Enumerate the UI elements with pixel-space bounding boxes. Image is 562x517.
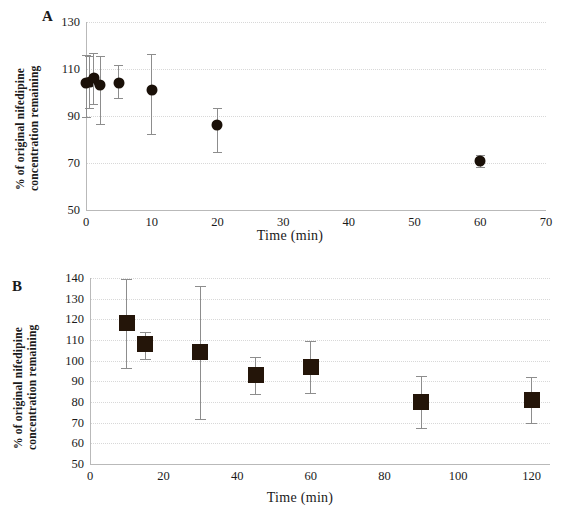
x-tick-label: 50: [408, 215, 421, 230]
y-tick-label: 90: [68, 109, 81, 124]
error-bar-cap: [213, 152, 222, 153]
error-bar-cap: [96, 56, 105, 57]
error-bar-cap: [195, 419, 206, 420]
error-bar-cap: [250, 394, 261, 395]
y-tick-label: 120: [65, 312, 84, 327]
error-bar-cap: [476, 167, 485, 168]
x-tick-label: 20: [211, 215, 224, 230]
x-tick-label: 0: [87, 469, 93, 484]
gridline: [90, 381, 550, 383]
error-bar-cap: [85, 108, 94, 109]
error-bar-cap: [416, 428, 427, 429]
gridline: [90, 423, 550, 425]
y-tick-label: 70: [72, 415, 85, 430]
y-tick-label: 100: [65, 353, 84, 368]
panel-b: B % of original nifedipine concentration…: [0, 258, 562, 517]
error-bar-cap: [121, 368, 132, 369]
data-point: [113, 78, 124, 89]
y-tick-label: 140: [65, 271, 84, 286]
data-point: [212, 120, 223, 131]
data-point: [303, 359, 319, 375]
gridline: [90, 361, 550, 363]
data-point: [146, 85, 157, 96]
y-tick-label: 130: [61, 15, 80, 30]
x-tick-label: 70: [540, 215, 553, 230]
y-tick-label: 110: [62, 62, 80, 77]
x-tick-label: 20: [157, 469, 170, 484]
error-bar-cap: [250, 357, 261, 358]
y-tick-label: 50: [68, 203, 81, 218]
gridline: [90, 278, 550, 280]
gridline: [86, 69, 546, 71]
y-tick-label: 70: [68, 156, 81, 171]
error-bar-cap: [89, 53, 98, 54]
gridline: [86, 116, 546, 118]
x-tick-label: 40: [343, 215, 356, 230]
error-bar-cap: [526, 423, 537, 424]
y-tick-label: 50: [72, 457, 85, 472]
data-point: [413, 394, 429, 410]
x-tick-label: 60: [474, 215, 487, 230]
gridline: [90, 340, 550, 342]
gridline: [90, 319, 550, 321]
panel-b-y-axis-title: % of original nifedipine concentration r…: [12, 290, 39, 485]
panel-a-y-axis-title: % of original nifedipine concentration r…: [14, 36, 41, 221]
y-tick-label: 90: [72, 374, 85, 389]
error-bar-cap: [305, 341, 316, 342]
gridline: [86, 22, 546, 24]
error-bar-cap: [213, 108, 222, 109]
x-tick-label: 0: [83, 215, 89, 230]
data-point: [119, 315, 135, 331]
x-tick-label: 40: [231, 469, 244, 484]
gridline: [90, 402, 550, 404]
error-bar-cap: [121, 279, 132, 280]
x-axis-line: [90, 464, 550, 465]
data-point: [524, 392, 540, 408]
y-tick-label: 60: [72, 436, 85, 451]
y-tick-label: 130: [65, 291, 84, 306]
error-bar-cap: [526, 377, 537, 378]
data-point: [248, 367, 264, 383]
panel-b-plot-area: 5060708090100110120130140020406080100120: [90, 278, 550, 464]
y-tick-label: 80: [72, 395, 85, 410]
x-tick-label: 60: [305, 469, 318, 484]
data-point: [192, 344, 208, 360]
error-bar-cap: [195, 286, 206, 287]
data-point: [475, 155, 486, 166]
x-tick-label: 80: [378, 469, 391, 484]
panel-a: A % of original nifedipine concentration…: [0, 0, 562, 258]
error-bar-cap: [305, 393, 316, 394]
error-bar-cap: [147, 134, 156, 135]
data-point: [137, 336, 153, 352]
data-point: [95, 80, 106, 91]
y-axis-line: [90, 278, 91, 464]
error-bar-cap: [114, 65, 123, 66]
error-bar-cap: [114, 98, 123, 99]
panel-b-x-axis-title: Time (min): [190, 490, 410, 506]
error-bar-cap: [96, 124, 105, 125]
error-bar-cap: [140, 359, 151, 360]
gridline: [90, 443, 550, 445]
x-tick-label: 100: [449, 469, 468, 484]
x-tick-label: 10: [145, 215, 158, 230]
panel-a-x-axis-title: Time (min): [180, 228, 400, 244]
error-bar-cap: [89, 104, 98, 105]
error-bar-cap: [416, 376, 427, 377]
error-bar-cap: [147, 54, 156, 55]
error-bar-cap: [82, 117, 91, 118]
y-tick-label: 110: [66, 333, 84, 348]
x-tick-label: 30: [277, 215, 290, 230]
x-axis-line: [86, 210, 546, 211]
gridline: [90, 299, 550, 301]
panel-a-letter: A: [42, 8, 53, 25]
error-bar-cap: [140, 332, 151, 333]
x-tick-label: 120: [522, 469, 541, 484]
panel-a-plot-area: 507090110130010203040506070: [86, 22, 546, 210]
